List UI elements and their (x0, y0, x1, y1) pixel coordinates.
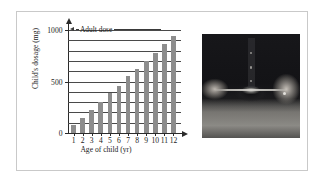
ring (283, 92, 286, 95)
x-axis-tick-label: 3 (90, 136, 94, 145)
bar (162, 44, 167, 133)
x-axis-tick-label: 12 (170, 136, 178, 145)
x-axis-title: Age of child (yr) (41, 145, 171, 154)
bar (108, 93, 113, 133)
bar (80, 118, 85, 133)
spoon-handle (214, 89, 288, 91)
bar (135, 69, 140, 133)
bar (153, 53, 158, 133)
annotation-leader-left (76, 29, 79, 30)
x-axis-tick-label: 11 (161, 136, 168, 145)
plot-area: 05001000 123456789101112 Adult dose (68, 30, 178, 133)
bar (71, 125, 76, 133)
bar-chart: Child's dosage (mg) 05001000 12345678910… (21, 16, 197, 168)
x-axis-tick-label: 8 (135, 136, 139, 145)
x-axis-tick-label: 4 (99, 136, 103, 145)
bars-group (69, 30, 178, 133)
y-axis-title: Child's dosage (mg) (31, 14, 40, 104)
x-axis-tick-label: 10 (151, 136, 159, 145)
photo-image (202, 34, 300, 138)
bar (126, 76, 131, 133)
y-axis-tick (65, 133, 69, 134)
bar (89, 110, 94, 133)
y-axis-tick-label: 1000 (47, 26, 62, 35)
x-axis-tick-label: 7 (126, 136, 130, 145)
bar (98, 102, 103, 133)
arrow-left-icon (70, 27, 74, 31)
x-axis-line (68, 133, 183, 134)
bar (117, 86, 122, 133)
x-axis-tick-label: 2 (81, 136, 85, 145)
bar (171, 36, 176, 133)
x-axis-tick-label: 9 (144, 136, 148, 145)
medicine-spoon-photo (202, 34, 300, 138)
x-axis-tick-label: 6 (117, 136, 121, 145)
x-axis-tick-label: 5 (108, 136, 112, 145)
x-axis-arrow-icon (182, 131, 188, 137)
y-axis-tick-label: 500 (51, 77, 62, 86)
adult-dose-annotation: Adult dose (70, 24, 161, 35)
y-axis-tick-label: 0 (59, 129, 63, 138)
annotation-leader-right (114, 29, 161, 30)
figure-frame: Child's dosage (mg) 05001000 12345678910… (16, 11, 308, 171)
bar (144, 61, 149, 133)
adult-dose-label: Adult dose (80, 25, 112, 34)
x-axis-tick-label: 1 (72, 136, 76, 145)
